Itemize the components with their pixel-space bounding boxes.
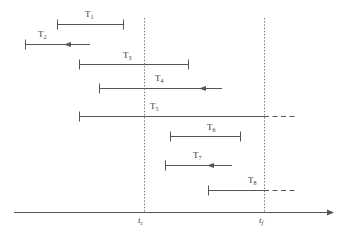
task-interval-layer <box>25 20 296 196</box>
task-label-subscript: 7 <box>199 155 202 161</box>
task-label-subscript: 8 <box>254 180 257 186</box>
time-marker-layer <box>145 18 265 212</box>
task-label-T5: T5 <box>150 102 159 111</box>
task-label-text: T <box>85 9 91 19</box>
task-interval-T2 <box>25 40 90 50</box>
task-label-T3: T3 <box>123 51 132 60</box>
axis-label-subscript: f <box>262 220 264 226</box>
axis-label-subscript: c <box>141 220 144 226</box>
task-direction-arrow-T4 <box>199 86 206 91</box>
task-label-subscript: 1 <box>91 14 94 20</box>
axis-label-critical-time: tc <box>138 216 143 225</box>
task-label-text: T <box>123 50 129 60</box>
task-label-T8: T8 <box>248 176 257 185</box>
task-label-text: T <box>150 101 156 111</box>
task-label-text: T <box>193 150 199 160</box>
time-axis-arrowhead <box>327 210 334 216</box>
task-label-subscript: 5 <box>156 106 159 112</box>
task-label-T2: T2 <box>38 30 47 39</box>
axis-label-final-time: tf <box>259 216 263 225</box>
task-direction-arrow-T2 <box>64 42 71 47</box>
task-label-text: T <box>38 29 44 39</box>
axis-layer <box>14 210 334 216</box>
task-label-T4: T4 <box>155 74 164 83</box>
task-interval-T6 <box>170 132 241 142</box>
task-label-subscript: 2 <box>44 34 47 40</box>
task-label-text: T <box>155 73 161 83</box>
task-label-subscript: 3 <box>129 55 132 61</box>
task-label-T7: T7 <box>193 151 202 160</box>
task-label-subscript: 4 <box>161 78 164 84</box>
diagram-canvas <box>0 0 344 234</box>
task-label-text: T <box>207 122 213 132</box>
task-label-T6: T6 <box>207 123 216 132</box>
timeline-diagram: tctfT1T2T3T4T5T6T7T8 <box>0 0 344 234</box>
task-interval-T3 <box>79 60 189 70</box>
task-interval-T1 <box>57 20 124 30</box>
task-direction-arrow-T7 <box>207 163 214 168</box>
task-interval-T5 <box>79 112 296 122</box>
task-label-T1: T1 <box>85 10 94 19</box>
task-interval-T8 <box>208 186 296 196</box>
task-label-subscript: 6 <box>213 127 216 133</box>
task-label-text: T <box>248 175 254 185</box>
task-interval-T4 <box>99 84 222 94</box>
task-interval-T7 <box>165 161 232 171</box>
